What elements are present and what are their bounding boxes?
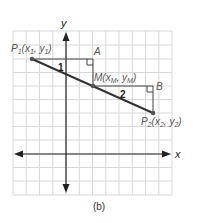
point-p2 <box>151 111 156 116</box>
figure-caption: (b) <box>0 201 198 212</box>
label-b: B <box>156 81 163 92</box>
point-m <box>91 84 96 89</box>
x-axis-left-arrow-icon <box>14 151 23 158</box>
triangle-2-label: 2 <box>120 89 126 100</box>
x-axis-right-arrow-icon <box>162 151 171 158</box>
y-axis-label: y <box>60 17 68 29</box>
y-axis-down-arrow-icon <box>63 184 70 193</box>
right-angle-mark-b <box>147 86 153 92</box>
label-p2: P2(x2, y2) <box>141 116 182 128</box>
point-p1 <box>30 57 35 62</box>
label-m: M(xM, yM) <box>94 72 136 84</box>
triangle-1-label: 1 <box>58 62 64 73</box>
grid <box>13 31 172 195</box>
x-axis-label: x <box>174 148 181 160</box>
y-axis-up-arrow-icon <box>63 32 70 41</box>
coordinate-diagram: y x P1(x1, y1) A M(xM, yM) B P2(x2, y2) … <box>0 0 198 223</box>
label-a: A <box>93 46 101 57</box>
